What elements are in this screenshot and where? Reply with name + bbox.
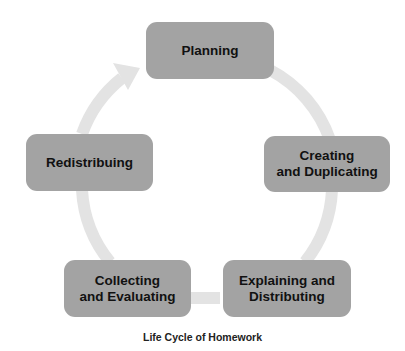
diagram-caption: Life Cycle of Homework: [0, 331, 405, 343]
stage-label: Creating and Duplicating: [276, 148, 377, 180]
stage-label: Redistribuing: [46, 155, 133, 171]
stage-label: Explaining and Distributing: [239, 273, 335, 305]
stage-explaining: Explaining and Distributing: [223, 260, 351, 317]
stage-creating: Creating and Duplicating: [264, 136, 390, 192]
stage-planning: Planning: [146, 22, 274, 79]
stage-label: Planning: [182, 43, 239, 59]
stage-collecting: Collecting and Evaluating: [64, 260, 191, 317]
stage-label: Collecting and Evaluating: [79, 273, 175, 305]
stage-redistributing: Redistribuing: [26, 134, 153, 191]
